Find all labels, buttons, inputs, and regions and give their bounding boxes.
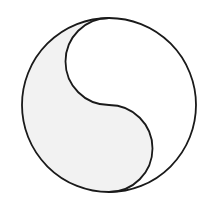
taijitu-svg: Taijitu (yin-yang) geometric figure A ci…	[0, 0, 205, 208]
figure-canvas: Taijitu (yin-yang) geometric figure A ci…	[0, 0, 205, 208]
